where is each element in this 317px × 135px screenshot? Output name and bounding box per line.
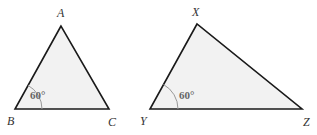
- triangle-xyz-shape: [150, 24, 302, 109]
- triangle-abc: 60° A B C: [7, 6, 117, 129]
- vertex-y-label: Y: [140, 114, 148, 128]
- angle-y-label: 60°: [179, 89, 194, 101]
- vertex-a-label: A: [56, 6, 65, 20]
- triangle-xyz: 60° X Y Z: [140, 5, 310, 129]
- vertex-c-label: C: [108, 115, 117, 129]
- vertex-b-label: B: [7, 114, 15, 128]
- triangles-diagram: 60° A B C 60° X Y Z: [0, 0, 317, 135]
- vertex-x-label: X: [191, 5, 200, 19]
- vertex-z-label: Z: [303, 115, 310, 129]
- angle-b-label: 60°: [30, 89, 45, 101]
